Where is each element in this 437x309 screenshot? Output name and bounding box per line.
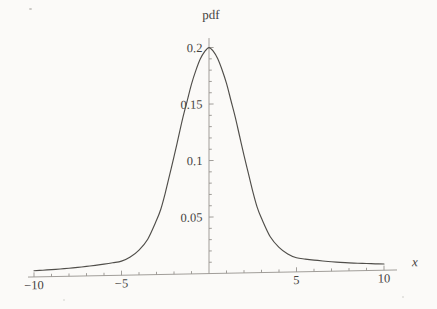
y-tick-label: 0.15	[181, 98, 203, 112]
x-tick-label: −10	[24, 278, 44, 292]
x-tick-label: 10	[378, 271, 390, 285]
scan-speck	[402, 296, 404, 298]
pdf-distribution-plot: −10−55100.050.10.150.2 pdf x	[0, 0, 437, 309]
axes-and-curve: −10−55100.050.10.150.2	[24, 34, 397, 292]
plot-area: −10−55100.050.10.150.2 pdf x	[24, 3, 418, 292]
y-tick-label: 0.2	[187, 41, 203, 55]
x-tick-label: −5	[115, 276, 128, 290]
scan-speck	[29, 8, 32, 10]
x-tick-label: 5	[293, 273, 299, 287]
x-axis-label: x	[411, 254, 418, 269]
scan-speck	[63, 299, 65, 301]
x-axis-line	[28, 270, 397, 277]
y-axis-title: pdf	[202, 7, 220, 22]
scanned-chart-page: −10−55100.050.10.150.2 pdf x	[0, 0, 437, 309]
y-tick-label: 0.1	[187, 154, 203, 168]
y-tick-label: 0.05	[181, 211, 203, 225]
